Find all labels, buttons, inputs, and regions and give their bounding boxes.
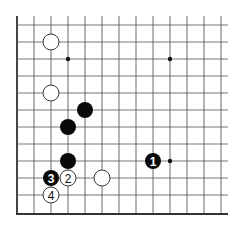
- white-stone-4: 4: [43, 187, 59, 203]
- move-number: 4: [48, 189, 55, 203]
- stone-disc: [43, 34, 59, 50]
- black-stone: [60, 153, 76, 169]
- move-number: 3: [48, 172, 55, 186]
- white-stone: [94, 170, 110, 186]
- move-number: 2: [65, 172, 72, 186]
- move-number: 1: [150, 155, 157, 169]
- stone-disc: [60, 153, 76, 169]
- white-stone: [43, 85, 59, 101]
- black-stone: [77, 102, 93, 118]
- star-point: [168, 57, 172, 61]
- black-stone-1: 1: [145, 153, 161, 169]
- white-stone-2: 2: [60, 170, 76, 186]
- stone-disc: [94, 170, 110, 186]
- star-point: [168, 159, 172, 163]
- black-stone: [60, 119, 76, 135]
- black-stone-3: 3: [43, 170, 59, 186]
- stone-disc: [77, 102, 93, 118]
- go-board: 1234: [0, 0, 242, 227]
- stone-disc: [60, 119, 76, 135]
- star-point: [66, 57, 70, 61]
- white-stone: [43, 34, 59, 50]
- stone-disc: [43, 85, 59, 101]
